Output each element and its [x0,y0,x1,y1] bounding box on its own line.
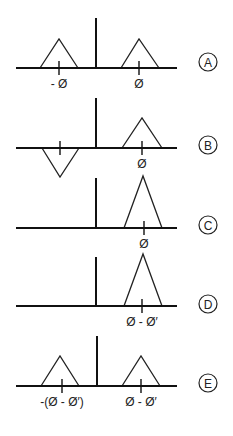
panel-c: ØC [16,176,217,251]
frequency-spectrum-diagram: - ØØAØBØCØ - Ø′D-(Ø - Ø′)Ø - Ø′E [0,0,233,436]
frequency-label: Ø [134,77,143,91]
triangle-spectrum [124,254,162,306]
panel-badge-letter: D [204,298,213,312]
panel-badge-letter: B [204,139,212,153]
diagram-canvas: - ØØAØBØCØ - Ø′D-(Ø - Ø′)Ø - Ø′E [0,0,233,436]
triangle-spectrum [41,356,79,386]
triangle-spectrum [121,39,159,68]
frequency-label: Ø - Ø′ [125,395,157,409]
frequency-label: Ø - Ø′ [126,315,158,329]
panel-e: -(Ø - Ø′)Ø - Ø′E [16,336,217,409]
panel-badge-letter: E [204,377,212,391]
panel-badge-letter: C [204,219,213,233]
triangle-spectrum [124,176,162,228]
frequency-label: - Ø [51,77,68,91]
panel-b: ØB [16,98,217,177]
frequency-label: Ø [139,237,148,251]
frequency-label: -(Ø - Ø′) [40,395,84,409]
panel-a: - ØØA [16,18,217,91]
panel-d: Ø - Ø′D [16,254,217,329]
panel-badge-letter: A [204,56,212,70]
frequency-label: Ø [137,157,146,171]
